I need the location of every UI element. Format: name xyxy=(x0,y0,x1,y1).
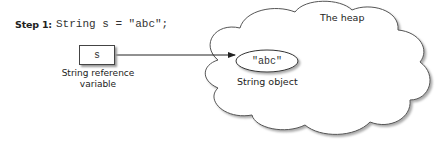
string-object-value: "abc" xyxy=(236,50,298,72)
string-object-caption: String object xyxy=(237,76,298,87)
reference-caption: String reference variable xyxy=(58,68,138,90)
step-code: String s = "abc"; xyxy=(56,18,168,30)
reference-variable-name: s xyxy=(94,50,100,61)
reference-variable-box: s xyxy=(79,45,115,65)
reference-caption-line2: variable xyxy=(58,79,138,90)
reference-caption-line1: String reference xyxy=(58,68,138,79)
heap-title: The heap xyxy=(320,12,364,23)
diagram-canvas: Step 1: String s = "abc"; s String refer… xyxy=(0,0,442,142)
step-label: Step 1: xyxy=(15,19,52,30)
